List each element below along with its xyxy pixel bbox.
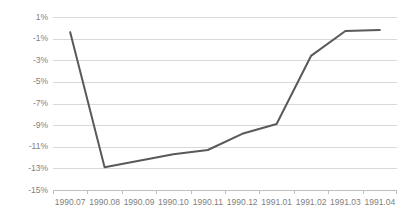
x-axis-tick-label: 1990.10: [156, 196, 190, 212]
x-axis-tick-mark: [191, 190, 192, 194]
x-axis-tick-mark: [396, 190, 397, 194]
y-axis-tick-label: -11%: [0, 142, 48, 151]
x-axis-tick-label: 1991.03: [328, 196, 362, 212]
x-axis-labels: 1990.071990.081990.091990.101990.111990.…: [53, 196, 397, 212]
x-axis-tick-label: 1991.02: [294, 196, 328, 212]
x-axis-tick-mark: [225, 190, 226, 194]
x-axis-tick-label: 1990.11: [191, 196, 225, 212]
x-axis-tick-mark: [87, 190, 88, 194]
x-axis-tick-mark: [259, 190, 260, 194]
y-axis-tick-label: 1%: [0, 13, 48, 22]
y-axis-tick-label: -9%: [0, 121, 48, 130]
line-chart: 1%-1%-3%-5%-7%-9%-11%-13%-15% 1990.07199…: [0, 0, 415, 224]
x-axis-tick-label: 1991.01: [259, 196, 293, 212]
x-axis-tick-mark: [156, 190, 157, 194]
x-axis-tick-label: 1990.12: [225, 196, 259, 212]
x-axis-tick-label: 1990.09: [122, 196, 156, 212]
x-axis-tick-mark: [294, 190, 295, 194]
x-axis-tick-mark: [122, 190, 123, 194]
y-axis-tick-label: -7%: [0, 99, 48, 108]
y-axis-tick-label: -5%: [0, 77, 48, 86]
series-line: [53, 17, 397, 190]
x-axis-tick-label: 1990.07: [53, 196, 87, 212]
x-axis-tick-label: 1990.08: [87, 196, 121, 212]
x-axis-tick-mark: [363, 190, 364, 194]
x-axis-tick-mark: [53, 190, 54, 194]
plot-area: [53, 17, 397, 190]
x-axis-tick-label: 1991.04: [363, 196, 397, 212]
x-axis-tick-mark: [328, 190, 329, 194]
y-axis-tick-label: -3%: [0, 56, 48, 65]
y-axis-tick-label: -1%: [0, 34, 48, 43]
y-axis-tick-label: -13%: [0, 164, 48, 173]
series-polyline: [70, 30, 380, 167]
y-axis-tick-label: -15%: [0, 186, 48, 195]
